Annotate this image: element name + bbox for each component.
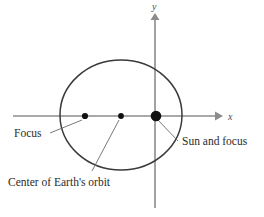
focus-label: Focus <box>14 127 42 139</box>
y-axis-arrowhead <box>151 13 160 20</box>
x-axis-arrowhead <box>215 112 223 121</box>
sun-focus-point <box>151 111 162 122</box>
diagram-canvas: x y Focus Center of Earth's orbit Sun an… <box>0 0 264 217</box>
x-axis-label: x <box>227 111 233 122</box>
y-axis: y <box>151 1 160 208</box>
orbit-diagram: x y Focus Center of Earth's orbit Sun an… <box>0 0 264 217</box>
y-axis-label: y <box>151 1 157 12</box>
orbit-center-leader-line <box>92 120 119 171</box>
focus-leader-line <box>50 120 82 133</box>
sun-focus-leader-line <box>158 120 178 141</box>
orbit-center-point <box>118 113 124 119</box>
sun-focus-label: Sun and focus <box>182 135 248 147</box>
orbit-center-label: Center of Earth's orbit <box>8 176 111 188</box>
focus-point-left <box>82 113 88 119</box>
